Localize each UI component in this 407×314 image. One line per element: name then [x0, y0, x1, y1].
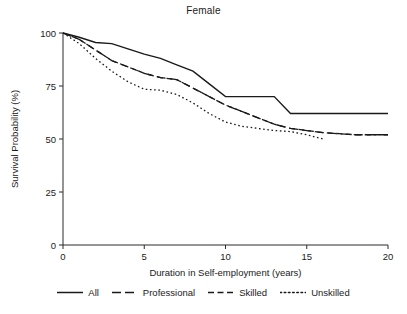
x-tick-label: 5 [142, 251, 147, 262]
x-tick-label: 10 [220, 251, 231, 262]
series-line-unskilled [63, 33, 323, 139]
legend-swatch-long-dash-icon [112, 288, 138, 297]
legend-label: Unskilled [311, 287, 350, 298]
legend-label: Professional [143, 287, 195, 298]
y-tick-label: 100 [40, 28, 56, 39]
series-line-skilled [63, 33, 388, 135]
x-tick-label: 20 [383, 251, 394, 262]
series-line-all [63, 33, 388, 114]
survival-chart: Female 025507510005101520Duration in Sel… [0, 0, 407, 314]
series-line-professional [63, 33, 388, 135]
y-tick-label: 50 [45, 134, 56, 145]
plot-area: 025507510005101520Duration in Self-emplo… [0, 0, 407, 314]
legend-swatch-solid-icon [57, 288, 83, 297]
legend-item-professional[interactable]: Professional [112, 287, 195, 298]
series-lines [63, 33, 388, 139]
legend-swatch-dash-icon [208, 288, 234, 297]
axis-labels: 025507510005101520Duration in Self-emplo… [9, 28, 393, 279]
legend-item-unskilled[interactable]: Unskilled [280, 287, 350, 298]
y-tick-label: 75 [45, 81, 56, 92]
legend-swatch-dotted-icon [280, 288, 306, 297]
legend-item-skilled[interactable]: Skilled [208, 287, 267, 298]
y-tick-label: 0 [51, 240, 56, 251]
x-tick-label: 0 [60, 251, 65, 262]
y-tick-label: 25 [45, 187, 56, 198]
y-axis-title: Survival Probability (%) [9, 90, 20, 188]
axes [59, 33, 388, 249]
x-axis-title: Duration in Self-employment (years) [149, 267, 301, 278]
legend-item-all[interactable]: All [57, 287, 99, 298]
chart-legend: AllProfessionalSkilledUnskilled [0, 287, 407, 298]
legend-label: All [88, 287, 99, 298]
x-tick-label: 15 [301, 251, 312, 262]
legend-label: Skilled [239, 287, 267, 298]
